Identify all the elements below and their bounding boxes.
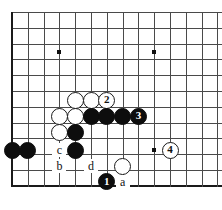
stone-black (83, 108, 100, 125)
stone-white (51, 124, 68, 141)
star-point (152, 50, 156, 54)
stone-white-move-4: 4 (162, 142, 179, 159)
grid-line-vertical (28, 12, 29, 187)
grid-line-vertical (186, 12, 187, 187)
point-label-a: a (116, 175, 130, 189)
stone-black (98, 108, 115, 125)
grid-line-vertical (44, 12, 45, 187)
stone-white (67, 92, 84, 109)
stone-white (67, 108, 84, 125)
stone-black (67, 124, 84, 141)
stone-black-move-3: 3 (130, 108, 147, 125)
grid-line-vertical (138, 12, 139, 187)
stone-black (67, 142, 84, 159)
grid-line-vertical (170, 12, 171, 187)
stone-move-number: 4 (167, 144, 173, 155)
stone-black (19, 142, 36, 159)
stone-black (4, 142, 21, 159)
stone-white (114, 158, 131, 175)
stone-black-move-1: 1 (98, 173, 115, 190)
go-board-diagram: 2341 cbda (0, 0, 222, 210)
point-label-c: c (52, 143, 66, 157)
point-label-b: b (52, 159, 66, 173)
stone-white (51, 108, 68, 125)
grid-line-vertical (154, 12, 155, 187)
star-point (57, 50, 61, 54)
stone-black (114, 108, 131, 125)
grid-line-vertical (217, 12, 218, 187)
stone-move-number: 3 (136, 110, 142, 121)
star-point (152, 148, 156, 152)
stone-move-number: 2 (104, 94, 110, 105)
grid-line-vertical (202, 12, 203, 187)
stone-move-number: 1 (104, 176, 110, 187)
point-label-d: d (84, 159, 98, 173)
board-edge-left (11, 12, 13, 187)
stone-white (83, 92, 100, 109)
